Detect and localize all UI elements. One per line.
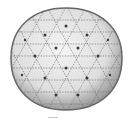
image-stage	[0, 0, 133, 124]
sphere-body	[11, 8, 122, 110]
caption-mark	[48, 117, 58, 118]
geodesic-sphere	[0, 0, 133, 124]
